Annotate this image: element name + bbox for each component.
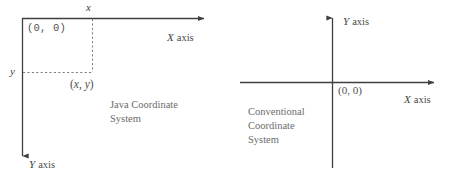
java-caption: Java Coordinate System: [110, 98, 178, 126]
conventional-caption: Conventional Coordinate System: [248, 105, 305, 147]
java-y-axis-label: Yaxis: [29, 154, 55, 173]
figure-linework: [0, 0, 455, 178]
java-point-close-paren: ): [90, 78, 94, 90]
java-x-axis-label: Xaxis: [167, 27, 194, 46]
conventional-origin-label: (0, 0): [338, 84, 362, 97]
conventional-caption-line-3: System: [248, 133, 305, 147]
conventional-caption-line-1: Conventional: [248, 105, 305, 119]
conventional-x-axis-letter: X: [404, 93, 411, 105]
conventional-x-axis-label: Xaxis: [404, 89, 431, 108]
java-x-tick-label: x: [86, 1, 91, 14]
java-x-axis-letter: X: [167, 31, 174, 43]
java-caption-line-2: System: [110, 112, 178, 126]
conventional-caption-line-2: Coordinate: [248, 119, 305, 133]
java-y-axis-word: axis: [35, 159, 55, 170]
java-point-label: (x, y): [70, 78, 94, 92]
java-x-axis-word: axis: [174, 32, 194, 43]
java-caption-line-1: Java Coordinate: [110, 98, 178, 112]
conventional-y-axis-word: axis: [349, 16, 369, 27]
coordinate-systems-figure: x y (0, 0) (x, y) Xaxis Yaxis Java Coord…: [0, 0, 455, 178]
conventional-y-axis-label: Yaxis: [343, 11, 369, 30]
java-origin-label: (0, 0): [27, 22, 66, 34]
conventional-x-axis-word: axis: [411, 94, 431, 105]
java-y-tick-label: y: [10, 65, 15, 78]
